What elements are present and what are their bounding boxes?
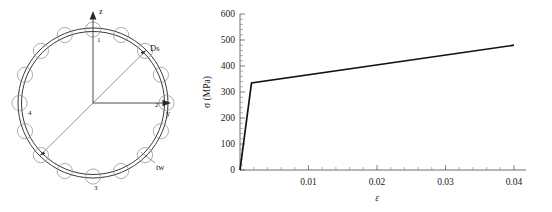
stress-strain-chart: 0 100 200 300 400 500 600: [196, 0, 552, 212]
x-tick-label-002: 0.02: [369, 177, 386, 187]
label-thickness-tw: tw: [156, 162, 165, 172]
cross-section-diagram: z y 1 2 3 4 Ds tw: [0, 0, 200, 212]
y-tick-label-0: 0: [230, 165, 235, 175]
x-axis-title: ε: [375, 193, 379, 203]
y-tick-label-100: 100: [221, 139, 236, 149]
y-tick-label-600: 600: [221, 9, 236, 19]
y-axis-title: σ (MPa): [202, 76, 213, 108]
x-tick-label-004: 0.04: [506, 177, 523, 187]
label-node-1: 1: [97, 36, 101, 44]
y-tick-label-300: 300: [221, 87, 236, 97]
y-tick-label-500: 500: [221, 35, 236, 45]
figure-canvas: z y 1 2 3 4 Ds tw: [0, 0, 552, 212]
z-axis-arrow-head: [90, 11, 97, 20]
label-node-4: 4: [28, 109, 32, 117]
y-tick-label-400: 400: [221, 61, 236, 71]
rebar: [33, 43, 48, 58]
rebar: [85, 169, 100, 184]
x-tick-label-003: 0.03: [437, 177, 454, 187]
stress-strain-curve-line: [240, 45, 514, 170]
y-axis-arrow-head: [163, 100, 172, 106]
rebar: [12, 95, 27, 110]
label-axis-z: z: [99, 6, 103, 16]
label-node-2: 2: [155, 101, 159, 109]
label-diameter-ds: Ds: [150, 43, 159, 53]
y-tick-label-200: 200: [221, 113, 236, 123]
x-tick-label-001: 0.01: [300, 177, 317, 187]
label-node-3: 3: [94, 184, 98, 192]
x-axis-ticks: [309, 165, 515, 170]
